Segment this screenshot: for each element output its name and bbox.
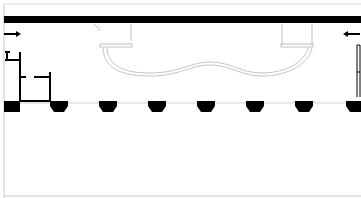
column-block	[50, 101, 68, 112]
column-block	[148, 101, 166, 112]
right-top-fixture	[281, 24, 313, 47]
left-room-walls	[5, 52, 50, 102]
right-room-wall	[357, 45, 360, 97]
column-block	[295, 101, 313, 112]
column-block	[346, 101, 361, 112]
top-wall	[4, 16, 361, 23]
left-top-fixture	[94, 24, 132, 47]
column-block	[246, 101, 264, 112]
conveyor-track	[103, 48, 312, 76]
arrow-left-icon	[343, 31, 360, 37]
column-block	[197, 101, 215, 112]
arrow-right-icon	[4, 31, 21, 37]
floor-plan-diagram	[0, 0, 361, 198]
column-block	[4, 101, 20, 112]
column-block	[99, 101, 117, 112]
